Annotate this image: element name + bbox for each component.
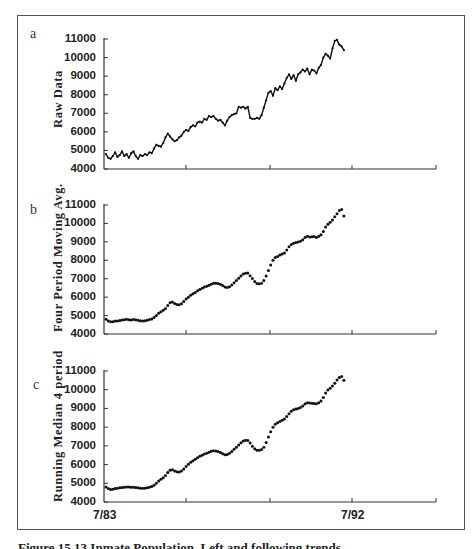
data-point — [235, 112, 237, 114]
data-point — [322, 56, 324, 58]
data-point — [222, 121, 224, 123]
data-point — [210, 116, 212, 118]
data-point — [333, 382, 336, 385]
data-point — [164, 136, 166, 138]
data-point — [208, 115, 210, 117]
data-point — [249, 442, 252, 445]
data-point — [249, 117, 251, 119]
data-point — [242, 106, 244, 108]
data-point — [263, 107, 265, 109]
data-point — [155, 314, 158, 317]
data-point — [304, 70, 306, 72]
data-point — [224, 124, 226, 126]
data-point — [148, 151, 150, 153]
data-point — [215, 118, 217, 120]
data-point — [164, 474, 167, 477]
data-point — [125, 153, 127, 155]
data-point — [285, 415, 288, 418]
data-point — [283, 82, 285, 84]
data-point — [162, 142, 164, 144]
data-point — [206, 119, 208, 121]
data-point — [174, 140, 176, 142]
data-point — [288, 245, 291, 248]
data-point — [262, 446, 265, 449]
data-point — [238, 106, 240, 108]
data-point — [251, 118, 253, 120]
data-point — [244, 108, 246, 110]
panel-b-plot — [104, 204, 436, 334]
data-point — [334, 40, 336, 42]
data-point — [166, 304, 169, 307]
data-point — [183, 131, 185, 133]
data-point — [180, 470, 183, 473]
data-point — [135, 155, 137, 157]
data-point — [322, 230, 325, 233]
data-point — [160, 146, 162, 148]
data-point — [340, 208, 343, 211]
data-point — [271, 426, 274, 429]
data-point — [333, 215, 336, 218]
data-point — [153, 147, 155, 149]
data-point — [169, 135, 171, 137]
data-point — [219, 119, 221, 121]
data-point — [313, 69, 315, 71]
data-point — [240, 107, 242, 109]
data-point — [114, 151, 116, 153]
data-point — [119, 154, 121, 156]
data-point — [320, 233, 323, 236]
data-point — [292, 74, 294, 76]
data-point — [267, 269, 270, 272]
plots-canvas — [0, 0, 476, 549]
data-point — [121, 150, 123, 152]
data-point — [315, 72, 317, 74]
data-point — [320, 64, 322, 66]
data-point — [301, 404, 304, 407]
data-point — [155, 482, 158, 485]
data-point — [162, 476, 165, 479]
data-point — [166, 471, 169, 474]
data-point — [176, 139, 178, 141]
data-point — [203, 118, 205, 120]
data-point — [226, 120, 228, 122]
data-point — [235, 279, 238, 282]
data-point — [247, 106, 249, 108]
data-point — [336, 39, 338, 41]
data-point — [105, 153, 107, 155]
data-point — [199, 121, 201, 123]
data-point — [329, 57, 331, 59]
data-point — [182, 300, 185, 303]
data-point — [308, 73, 310, 75]
data-point — [128, 157, 130, 159]
data-point — [260, 114, 262, 116]
data-point — [336, 212, 339, 215]
data-point — [246, 439, 249, 442]
data-point — [281, 88, 283, 90]
data-point — [237, 277, 240, 280]
data-point — [187, 130, 189, 132]
data-point — [269, 430, 272, 433]
panel-a-plot — [104, 38, 436, 169]
data-point — [258, 118, 260, 120]
data-point — [274, 87, 276, 89]
data-point — [342, 379, 345, 382]
data-point — [107, 157, 109, 159]
data-point — [331, 218, 334, 221]
data-point — [192, 124, 194, 126]
data-point — [212, 115, 214, 117]
data-point — [322, 396, 325, 399]
data-point — [237, 443, 240, 446]
data-point — [267, 92, 269, 94]
data-point — [132, 150, 134, 152]
data-point — [158, 145, 160, 147]
data-point — [276, 89, 278, 91]
data-point — [201, 121, 203, 123]
data-point — [253, 280, 256, 283]
data-point — [342, 215, 345, 218]
data-point — [290, 78, 292, 80]
data-point — [217, 120, 219, 122]
data-point — [320, 399, 323, 402]
data-point — [151, 152, 153, 154]
data-point — [194, 125, 196, 127]
data-point — [256, 117, 258, 119]
data-point — [267, 436, 270, 439]
